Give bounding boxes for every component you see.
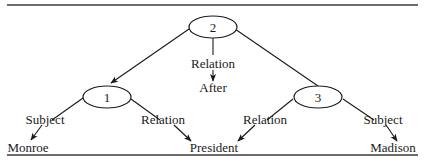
- node-2-label: 2: [210, 20, 217, 35]
- edge-n3-president: [238, 125, 255, 141]
- node-3-label: 3: [315, 90, 322, 105]
- leaf-after: After: [199, 80, 227, 95]
- edge-label-n2-relation: Relation: [191, 56, 236, 71]
- edge-n2-n1: [111, 29, 189, 83]
- leaf-madison: Madison: [370, 140, 416, 155]
- edge-label-n3-relation: Relation: [243, 112, 288, 127]
- node-1-label: 1: [104, 90, 111, 105]
- node-3: 3: [294, 86, 342, 108]
- edge-n1-monroe: [31, 125, 42, 140]
- node-2: 2: [189, 16, 237, 38]
- proposition-network-diagram: 2 1 3 Relation Subject Relation Relation…: [0, 0, 431, 164]
- edge-n2-n3: [235, 29, 318, 86]
- node-1: 1: [83, 86, 131, 108]
- leaf-monroe: Monroe: [7, 140, 48, 155]
- edge-label-n1-subject: Subject: [26, 112, 65, 127]
- edge-label-n1-relation: Relation: [141, 112, 186, 127]
- edge-label-n3-subject: Subject: [364, 112, 403, 127]
- edge-n3-madison: [386, 125, 397, 141]
- leaf-president: President: [190, 140, 239, 155]
- edge-n1-president: [174, 125, 191, 141]
